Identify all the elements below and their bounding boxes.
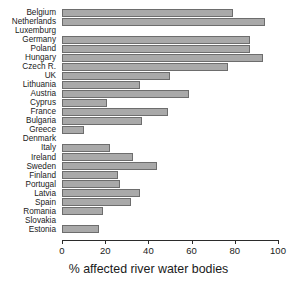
- bar-row: [62, 125, 278, 134]
- category-label: Slovakia: [0, 216, 59, 225]
- bar-row: [62, 53, 278, 62]
- bar-row: [62, 62, 278, 71]
- category-label: Belgium: [0, 8, 59, 17]
- bar-row: [62, 35, 278, 44]
- x-tick-mark: [62, 240, 63, 244]
- bar-row: [62, 225, 278, 234]
- bar-row: [62, 189, 278, 198]
- bar-row: [62, 207, 278, 216]
- x-tick-label: 20: [100, 245, 111, 256]
- category-label: Austria: [0, 89, 59, 98]
- bar-row: [62, 198, 278, 207]
- bar-row: [62, 116, 278, 125]
- bar: [62, 18, 265, 26]
- x-tick-mark: [105, 240, 106, 244]
- bar: [62, 81, 140, 89]
- bar: [62, 153, 133, 161]
- category-label: Greece: [0, 125, 59, 134]
- category-label: Poland: [0, 44, 59, 53]
- bar: [62, 63, 228, 71]
- bar: [62, 72, 170, 80]
- category-label: Finland: [0, 171, 59, 180]
- bar: [62, 9, 233, 17]
- category-label: Latvia: [0, 189, 59, 198]
- x-tick-label: 0: [59, 245, 64, 256]
- bar: [62, 54, 263, 62]
- bar: [62, 36, 250, 44]
- bar: [62, 117, 142, 125]
- category-label: Bulgaria: [0, 116, 59, 125]
- bar-row: [62, 26, 278, 35]
- bar-row: [62, 8, 278, 17]
- category-label: Luxemburg: [0, 26, 59, 35]
- bar-row: [62, 89, 278, 98]
- category-label: Estonia: [0, 225, 59, 234]
- x-tick-mark: [235, 240, 236, 244]
- bar-row: [62, 17, 278, 26]
- category-label: Cyprus: [0, 98, 59, 107]
- x-tick-label: 40: [143, 245, 154, 256]
- bar: [62, 189, 140, 197]
- category-axis-labels: BelgiumNetherlandsLuxemburgGermanyPoland…: [0, 8, 59, 234]
- category-label: Ireland: [0, 153, 59, 162]
- bar: [62, 99, 107, 107]
- bar-row: [62, 71, 278, 80]
- category-label: Czech R.: [0, 62, 59, 71]
- x-tick-mark: [148, 240, 149, 244]
- category-label: Netherlands: [0, 17, 59, 26]
- bar-row: [62, 171, 278, 180]
- bar-row: [62, 180, 278, 189]
- bar: [62, 126, 84, 134]
- bar: [62, 162, 157, 170]
- category-label: France: [0, 107, 59, 116]
- x-axis-line: [62, 240, 278, 241]
- x-tick-mark: [192, 240, 193, 244]
- bar-row: [62, 80, 278, 89]
- x-axis-title: % affected river water bodies: [0, 262, 297, 276]
- bar-row: [62, 44, 278, 53]
- bar: [62, 108, 168, 116]
- bar: [62, 45, 250, 53]
- category-label: Sweden: [0, 162, 59, 171]
- x-tick-mark: [278, 240, 279, 244]
- bar-row: [62, 107, 278, 116]
- category-label: Denmark: [0, 134, 59, 143]
- plot-area: [62, 8, 278, 234]
- bar: [62, 225, 99, 233]
- category-label: Spain: [0, 198, 59, 207]
- x-tick-label: 80: [230, 245, 241, 256]
- category-label: Lithuania: [0, 80, 59, 89]
- bar: [62, 90, 189, 98]
- category-label: UK: [0, 71, 59, 80]
- river-water-bodies-bar-chart: BelgiumNetherlandsLuxemburgGermanyPoland…: [0, 0, 297, 284]
- x-tick-label: 100: [270, 245, 286, 256]
- bar: [62, 171, 118, 179]
- category-label: Germany: [0, 35, 59, 44]
- category-label: Portugal: [0, 180, 59, 189]
- bar: [62, 144, 110, 152]
- category-label: Hungary: [0, 53, 59, 62]
- x-tick-label: 60: [186, 245, 197, 256]
- category-label: Italy: [0, 143, 59, 152]
- bar: [62, 207, 103, 215]
- bar-row: [62, 98, 278, 107]
- bar-row: [62, 134, 278, 143]
- bar-row: [62, 153, 278, 162]
- bar-row: [62, 162, 278, 171]
- bar-row: [62, 216, 278, 225]
- bar: [62, 198, 131, 206]
- bar-row: [62, 143, 278, 152]
- bar: [62, 180, 120, 188]
- category-label: Romania: [0, 207, 59, 216]
